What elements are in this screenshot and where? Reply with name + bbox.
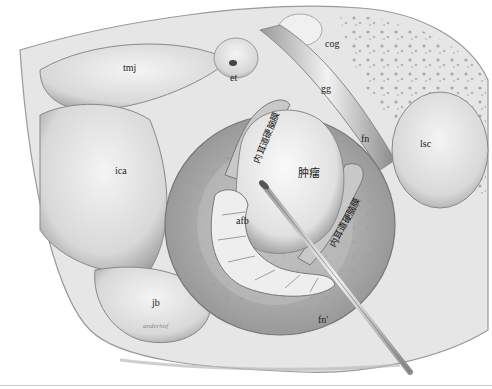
surgical-illustration: tmj et cog gg fn lsc ica 肿瘤 afb jb fn' 内…: [0, 0, 492, 389]
label-ica: ica: [115, 165, 127, 176]
bottom-divider: [0, 385, 492, 386]
artist-signature: anderhuf: [143, 322, 168, 330]
label-tmj: tmj: [123, 62, 136, 73]
label-gg: gg: [321, 83, 331, 94]
illustration-drawing: [0, 0, 492, 389]
label-fn-prime: fn': [318, 314, 328, 325]
label-fn: fn: [361, 133, 369, 144]
label-tumor: 肿瘤: [298, 164, 320, 180]
label-afb: afb: [236, 215, 249, 226]
label-jb: jb: [152, 297, 160, 308]
label-cog: cog: [325, 38, 339, 49]
label-et: et: [230, 72, 237, 83]
label-lsc: lsc: [420, 138, 431, 149]
